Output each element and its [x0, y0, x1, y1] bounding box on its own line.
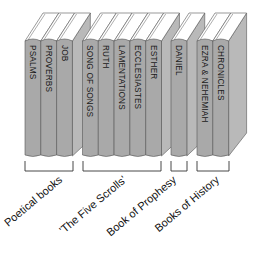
- book-title: RUTH: [101, 45, 110, 69]
- group-bracket: [197, 161, 229, 171]
- book-title: LAMENTATIONS: [117, 45, 126, 110]
- book-title: JOB: [60, 45, 69, 62]
- group-bracket: [25, 161, 73, 171]
- book-title: SONG OF SONGS: [85, 45, 94, 118]
- book-title: ESTHER: [149, 45, 158, 79]
- book-title: ECCLESIASTES: [133, 45, 142, 110]
- book-title: DANIEL: [174, 45, 183, 76]
- book-title: PROVERBS: [44, 45, 53, 92]
- group-label: Poetical books: [2, 173, 65, 229]
- group-bracket: [171, 161, 187, 171]
- book-title: CHRONICLES: [216, 45, 225, 101]
- book-title: PSALMS: [28, 45, 37, 80]
- books-layer: PSALMSPROVERBSJOBSONG OF SONGSRUTHLAMENT…: [25, 13, 247, 157]
- book-title: EZRA & NEHEMIAH: [200, 45, 209, 123]
- group-bracket: [83, 161, 161, 171]
- labels-layer: Poetical books'The Five Scrolls'Book of …: [2, 173, 222, 238]
- book-groups-diagram: PSALMSPROVERBSJOBSONG OF SONGSRUTHLAMENT…: [0, 0, 263, 264]
- brackets-layer: [25, 161, 229, 171]
